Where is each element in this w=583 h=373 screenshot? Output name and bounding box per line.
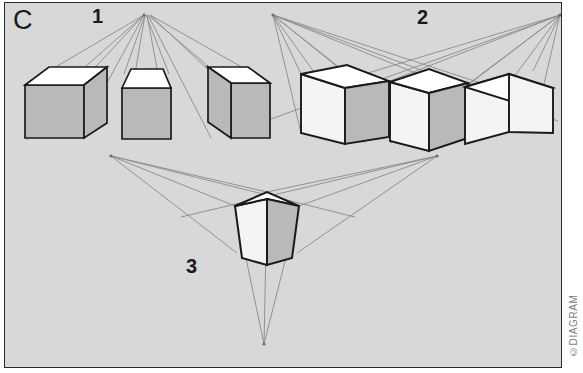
vanishing-point-2-right <box>558 13 561 16</box>
copyright-credit: ©DIAGRAM <box>568 283 582 369</box>
cube-2-3 <box>465 74 553 144</box>
cube-1-1 <box>25 67 107 138</box>
cube-front-face <box>122 88 171 139</box>
group-2-label: 2 <box>417 7 428 27</box>
cube-front-face <box>390 82 429 151</box>
plate-letter-label: C <box>13 7 33 34</box>
group-3-label: 3 <box>186 256 197 276</box>
vanishing-point-3-left <box>109 154 112 157</box>
cube-side-face <box>267 199 299 265</box>
cube-front-face <box>25 85 84 138</box>
illustration-plate: C 1 2 3 <box>4 2 562 368</box>
vanishing-point-3-bottom <box>262 342 265 345</box>
cube-side-face <box>345 81 389 144</box>
cube-front-face <box>235 199 267 265</box>
vanishing-point-1-center <box>142 13 145 16</box>
cube-1-3 <box>208 67 270 138</box>
vanishing-point-2-left <box>271 13 274 16</box>
vanishing-point-3-right <box>435 154 438 157</box>
cube-front-face <box>231 83 270 138</box>
cube-side-face <box>509 74 553 133</box>
screenshot-root: C 1 2 3 ©DIAGRAM <box>0 0 583 373</box>
cube-3-1 <box>235 192 299 265</box>
cube-1-2 <box>122 69 171 139</box>
perspective-diagram <box>5 3 562 368</box>
cube-2-1 <box>301 65 389 144</box>
group-1-label: 1 <box>92 6 103 26</box>
cube-side-face <box>429 83 468 151</box>
cube-2-2 <box>390 69 468 151</box>
cube-top-face <box>122 69 171 88</box>
